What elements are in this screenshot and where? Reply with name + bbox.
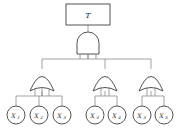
basic-event-node[interactable]: X 3: [53, 106, 71, 124]
basic-event-base: X: [10, 112, 16, 119]
basic-event-node[interactable]: X 3: [133, 106, 151, 124]
basic-event-circle[interactable]: [30, 106, 48, 124]
basic-event-subscript: 3: [143, 115, 146, 120]
basic-event-circle[interactable]: [155, 106, 173, 124]
top-event-node[interactable]: T: [66, 4, 110, 25]
basic-event-circle[interactable]: [86, 106, 104, 124]
top-event-label: T: [85, 11, 91, 20]
basic-event-node[interactable]: X 5: [155, 106, 173, 124]
or-gate-shape[interactable]: [139, 77, 163, 92]
basic-events-layer: X 1 X 2 X 3 X 3 X 4 X 3: [7, 106, 173, 124]
or-gate-shape[interactable]: [93, 77, 117, 92]
basic-event-base: X: [89, 112, 95, 119]
basic-event-base: X: [33, 112, 39, 119]
basic-event-subscript: 4: [117, 115, 121, 120]
basic-event-subscript: 5: [165, 115, 168, 120]
basic-event-subscript: 3: [63, 115, 66, 120]
basic-event-circle[interactable]: [133, 106, 151, 124]
basic-event-circle[interactable]: [108, 106, 126, 124]
basic-event-node[interactable]: X 3: [86, 106, 104, 124]
gate-top-and[interactable]: [77, 32, 99, 59]
fault-tree-diagram: T X 1 X 2: [0, 0, 176, 130]
basic-event-base: X: [111, 112, 117, 119]
basic-event-node[interactable]: X 2: [30, 106, 48, 124]
basic-event-subscript: 3: [96, 115, 99, 120]
diagram-canvas: T X 1 X 2: [0, 0, 176, 130]
basic-event-circle[interactable]: [53, 106, 71, 124]
basic-event-subscript: 1: [17, 115, 20, 120]
basic-event-base: X: [136, 112, 142, 119]
basic-event-subscript: 2: [39, 115, 43, 120]
basic-event-base: X: [56, 112, 62, 119]
gate-or-left[interactable]: [30, 77, 54, 97]
basic-event-node[interactable]: X 4: [108, 106, 126, 124]
and-gate-shape[interactable]: [77, 32, 99, 54]
basic-event-base: X: [158, 112, 164, 119]
basic-event-circle[interactable]: [7, 106, 25, 124]
basic-event-node[interactable]: X 1: [7, 106, 25, 124]
